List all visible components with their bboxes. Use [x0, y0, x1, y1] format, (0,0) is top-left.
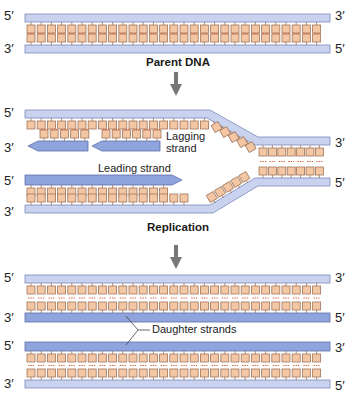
strand-end-label: 5′ — [335, 379, 345, 392]
daughter-strands-label: Daughter strands — [152, 324, 236, 336]
base-pairs — [27, 22, 321, 45]
strand-end-label: 5′ — [335, 176, 345, 189]
strand-end-label: 3′ — [4, 377, 14, 390]
parent-bottom-strand — [25, 45, 330, 53]
lagging-fragment-2 — [92, 141, 160, 151]
strand-end-label: 3′ — [335, 341, 345, 354]
strand-end-label: 3′ — [4, 42, 14, 55]
strand-end-label: 3′ — [4, 141, 14, 154]
lagging-label-line: Lagging — [166, 131, 205, 143]
parent-strand-2 — [25, 380, 330, 388]
strand-end-label: 5′ — [4, 9, 14, 22]
strand-end-label: 5′ — [4, 339, 14, 352]
daughter-strand-1 — [25, 313, 330, 322]
lagging-label-line: strand — [166, 143, 205, 155]
strand-end-label: 3′ — [335, 136, 345, 149]
leading-strand-label: Leading strand — [98, 163, 171, 175]
panel-caption: Parent DNA — [146, 57, 210, 69]
parent-dna-panel — [25, 14, 330, 53]
strand-end-label: 5′ — [4, 271, 14, 284]
strand-end-label: 3′ — [4, 205, 14, 218]
replication-panel — [25, 110, 330, 213]
parent-top-strand — [25, 14, 330, 22]
strand-end-label: 3′ — [335, 9, 345, 22]
strand-end-label: 5′ — [335, 311, 345, 324]
lagging-fragment-1 — [28, 141, 88, 151]
lagging-strand-label: Lagging strand — [166, 131, 205, 154]
strand-end-label: 3′ — [335, 271, 345, 284]
down-arrow-icon — [170, 245, 182, 269]
strand-end-label: 3′ — [4, 311, 14, 324]
daughter-strand-2 — [25, 342, 330, 351]
strand-end-label: 5′ — [4, 174, 14, 187]
strand-end-label: 5′ — [335, 42, 345, 55]
panel-caption: Replication — [147, 222, 209, 234]
down-arrow-icon — [170, 72, 182, 96]
strand-end-label: 5′ — [4, 106, 14, 119]
parent-strand-1 — [25, 275, 330, 283]
leading-strand-arrow — [25, 175, 182, 185]
